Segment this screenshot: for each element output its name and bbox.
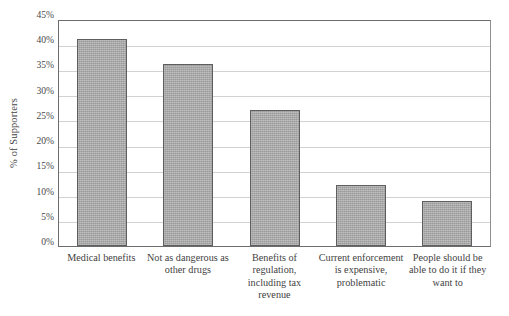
bar[interactable] bbox=[250, 110, 300, 246]
bar-chart-figure: % of Supporters 0%5%10%15%20%25%30%35%40… bbox=[0, 0, 509, 316]
y-axis-tick-label: 5% bbox=[12, 212, 54, 222]
y-axis-tick-label: 20% bbox=[12, 136, 54, 146]
bar[interactable] bbox=[77, 39, 127, 246]
bar[interactable] bbox=[336, 185, 386, 246]
x-axis-category-label: Not as dangerous as other drugs bbox=[145, 252, 232, 314]
y-axis-tick-label: 15% bbox=[12, 161, 54, 171]
y-axis-tick-label: 30% bbox=[12, 86, 54, 96]
bar-slot bbox=[318, 21, 404, 246]
y-axis-tick-label: 45% bbox=[12, 10, 54, 20]
bar[interactable] bbox=[422, 201, 472, 246]
y-axis-tick-label: 0% bbox=[12, 237, 54, 247]
x-axis-category-labels: Medical benefitsNot as dangerous as othe… bbox=[58, 252, 491, 314]
y-axis-tick-labels: 0%5%10%15%20%25%30%35%40%45% bbox=[12, 15, 54, 247]
y-axis-tick-label: 40% bbox=[12, 35, 54, 45]
bar[interactable] bbox=[163, 64, 213, 246]
y-axis-tick-label: 25% bbox=[12, 111, 54, 121]
y-axis-tick-label: 10% bbox=[12, 187, 54, 197]
x-axis-category-label: People should be able to do it if they w… bbox=[404, 252, 491, 314]
bars-layer bbox=[59, 21, 490, 246]
bar-slot bbox=[145, 21, 231, 246]
bar-slot bbox=[59, 21, 145, 246]
y-axis-tick-label: 35% bbox=[12, 60, 54, 70]
bar-slot bbox=[231, 21, 317, 246]
plot-area bbox=[58, 20, 491, 247]
bar-slot bbox=[404, 21, 490, 246]
x-axis-category-label: Current enforcement is expensive, proble… bbox=[318, 252, 405, 314]
x-axis-category-label: Medical benefits bbox=[58, 252, 145, 314]
x-axis-category-label: Benefits of regulation, including tax re… bbox=[231, 252, 318, 314]
